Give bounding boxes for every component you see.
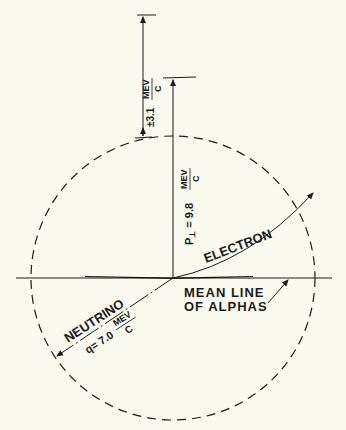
momentum-diagram: ELECTRON MEAN LINE OF ALPHAS P⊥= 9.8 MEV… — [0, 0, 346, 430]
p-perp-unit-den: C — [191, 175, 201, 182]
p-perp-subscript: ⊥ — [188, 231, 197, 238]
q-unit-den: C — [123, 323, 135, 336]
mean-line-of-alphas — [85, 276, 253, 279]
mean-line-leader — [268, 280, 288, 303]
p-perp-symbol: P — [183, 238, 195, 245]
p-perp-tick — [163, 77, 196, 78]
uncertainty-value: ±3.1 — [145, 107, 156, 127]
p-perp-unit-num: MEV — [179, 169, 189, 189]
svg-text:P⊥= 9.8: P⊥= 9.8 — [183, 203, 197, 245]
p-perp-value: = 9.8 — [183, 203, 195, 228]
uncertainty-unit-num: MEV — [141, 79, 151, 99]
electron-label: ELECTRON — [202, 226, 274, 266]
mean-line-label-1: MEAN LINE — [184, 285, 265, 300]
uncertainty-unit-den: C — [153, 85, 163, 92]
mean-line-label-2: OF ALPHAS — [184, 299, 268, 314]
